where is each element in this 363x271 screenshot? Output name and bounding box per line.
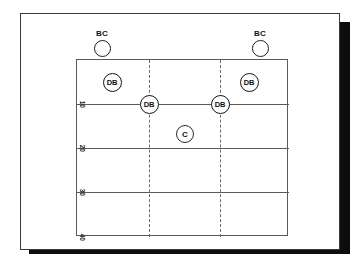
player-marker-db-upper-left[interactable]: DB: [103, 73, 122, 92]
yard-number-40: 40: [79, 230, 86, 244]
player-marker-text: DB: [144, 100, 154, 109]
player-marker-text: DB: [244, 78, 254, 87]
yard-line-y10: [77, 104, 289, 105]
player-marker-bc-left[interactable]: [94, 40, 111, 57]
player-marker-text: DB: [107, 78, 117, 87]
player-marker-db-upper-right[interactable]: DB: [240, 73, 259, 92]
diagram-card: 10203040 BCBCDBDBDBDBC: [20, 13, 340, 250]
player-label-bc-left: BC: [90, 29, 114, 38]
yard-number-30: 30: [79, 185, 86, 199]
player-label-bc-right: BC: [248, 29, 272, 38]
player-marker-text: C: [182, 130, 188, 139]
yard-line-y20: [77, 148, 289, 149]
player-marker-coach-center[interactable]: C: [176, 125, 194, 143]
football-field: 10203040 BCBCDBDBDBDBC: [76, 59, 288, 236]
diagram-canvas: 10203040 BCBCDBDBDBDBC: [0, 0, 363, 271]
player-marker-db-mid-right[interactable]: DB: [211, 95, 230, 114]
hash-mark-right-hash: [220, 60, 221, 237]
player-marker-db-mid-left[interactable]: DB: [140, 95, 159, 114]
yard-number-10: 10: [79, 97, 86, 111]
player-marker-bc-right[interactable]: [252, 40, 269, 57]
player-marker-text: DB: [215, 100, 225, 109]
hash-mark-left-hash: [149, 60, 150, 237]
yard-number-20: 20: [79, 141, 86, 155]
yard-line-y30: [77, 192, 289, 193]
